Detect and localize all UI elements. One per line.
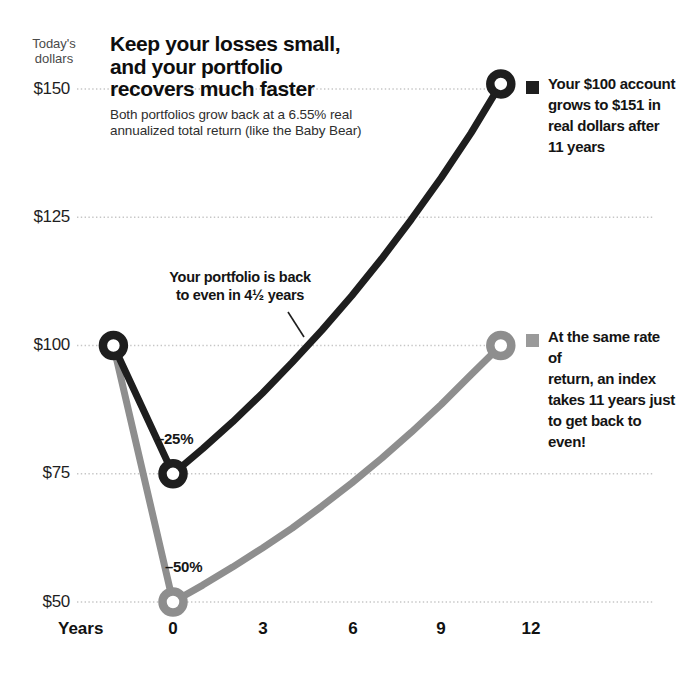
gray-legend-line3: takes 11 years just <box>548 389 676 410</box>
black-legend-bullet-icon <box>526 81 539 94</box>
gray-marker-y11-v100 <box>490 335 511 356</box>
y-tick-125: $125 <box>0 207 70 227</box>
gray-series-legend: At the same rate of return, an index tak… <box>548 326 676 452</box>
chart-title-line2: and your portfolio <box>110 56 340 79</box>
back-to-even-callout: Your portfolio is back to even in 4½ yea… <box>157 268 323 304</box>
y-tick-50: $50 <box>0 592 70 612</box>
x-axis-title: Years <box>58 619 103 639</box>
black-legend-line2: grows to $151 in <box>548 94 676 115</box>
black-marker-y-2-v100 <box>103 335 124 356</box>
black-marker-y11-v151 <box>490 73 511 94</box>
gray-legend-line2: return, an index <box>548 368 676 389</box>
callout-pointer-line <box>288 312 304 337</box>
black-legend-line1: Your $100 account <box>548 73 676 94</box>
y-axis-unit-line2: dollars <box>18 51 90 66</box>
black-legend-line3: real dollars after <box>548 115 676 136</box>
y-tick-150: $150 <box>0 79 70 99</box>
chart-subtitle-line1: Both portfolios grow back at a 6.55% rea… <box>110 107 362 123</box>
chart-subtitle-line2: annualized total return (like the Baby B… <box>110 123 362 139</box>
gray-legend-line4: to get back to even! <box>548 410 676 452</box>
callout-line1: Your portfolio is back <box>157 268 323 286</box>
black-drawdown-label: –25% <box>156 430 193 447</box>
black-marker-y0-v75 <box>163 463 184 484</box>
y-tick-100: $100 <box>0 335 70 355</box>
callout-line2: to even in 4½ years <box>157 286 323 304</box>
chart-title-line1: Keep your losses small, <box>110 33 340 56</box>
gray-legend-line1: At the same rate of <box>548 326 676 368</box>
chart-subtitle: Both portfolios grow back at a 6.55% rea… <box>110 107 362 139</box>
gray-marker-y0-v50 <box>163 592 184 613</box>
gray-drawdown-label: –50% <box>165 558 202 575</box>
black-series-legend: Your $100 account grows to $151 in real … <box>548 73 676 157</box>
y-axis-unit-line1: Today's <box>18 36 90 51</box>
y-axis-unit-label: Today's dollars <box>18 36 90 66</box>
x-tick-3: 3 <box>241 619 285 639</box>
chart-figure: Today's dollars Keep your losses small, … <box>0 0 700 674</box>
gray-legend-bullet-icon <box>526 334 539 347</box>
chart-title-line3: recovers much faster <box>110 78 340 101</box>
black-legend-line4: 11 years <box>548 136 676 157</box>
x-tick-6: 6 <box>331 619 375 639</box>
chart-title: Keep your losses small, and your portfol… <box>110 33 340 101</box>
x-tick-0: 0 <box>151 619 195 639</box>
x-tick-9: 9 <box>419 619 463 639</box>
y-tick-75: $75 <box>0 463 70 483</box>
x-tick-12: 12 <box>509 619 553 639</box>
